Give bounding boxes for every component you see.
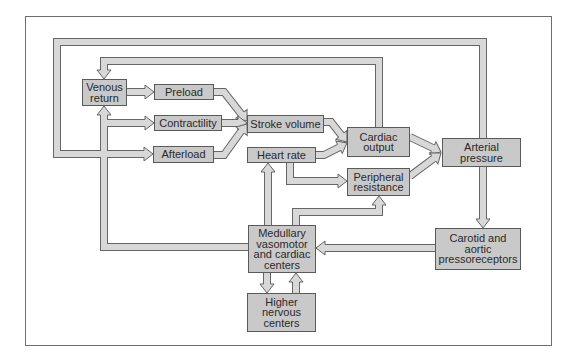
arrowhead-to-venous-return-bottom [97,106,111,115]
node-label: Cardiac output [360,132,398,153]
arrowhead-to-contractility [145,116,154,130]
node-medullary-centers: Medullary vasomotor and cardiac centers [248,225,316,273]
arrowhead-to-venous-return-top [97,70,111,79]
node-label: Contractility [159,118,216,129]
arrowhead-pressoreceptors-to-medullary [316,241,325,255]
arrowhead-higher-centers-to-medullary [289,273,303,282]
node-higher-nervous-centers: Higher nervous centers [247,293,316,332]
node-stroke-volume: Stroke volume [247,115,324,133]
node-cardiac-output: Cardiac output [347,127,410,157]
node-label: Stroke volume [250,119,320,130]
arrowhead-to-afterload [144,147,153,161]
node-arterial-pressure: Arterial pressure [442,138,521,167]
node-label: Carotid and aortic pressoreceptors [439,233,518,265]
node-label: Heart rate [257,150,306,161]
node-heart-rate: Heart rate [247,147,316,163]
arrowhead-medullary-to-heart-rate [261,163,275,172]
node-pressoreceptors: Carotid and aortic pressoreceptors [435,228,521,270]
node-label: Arterial pressure [460,142,503,163]
node-label: Preload [165,87,203,98]
node-afterload: Afterload [153,146,214,163]
node-peripheral-resistance: Peripheral resistance [347,168,410,196]
node-contractility: Contractility [154,115,222,131]
node-label: Afterload [161,149,205,160]
node-preload: Preload [154,84,214,100]
arrowhead-to-preload [145,85,154,99]
arrowhead-medullary-to-higher-centers [260,284,274,293]
diagram-canvas: Venous return Preload Contractility Afte… [0,0,565,363]
node-label: Higher nervous centers [262,297,301,329]
node-label: Venous return [86,82,123,103]
node-venous-return: Venous return [82,79,127,106]
arrowhead-heart-rate-to-peripheral-resistance [338,174,347,188]
node-label: Peripheral resistance [353,172,403,193]
arrowhead-medullary-to-peripheral-resistance [372,196,386,205]
arrowhead-arterial-pressure-to-pressoreceptors [476,219,490,228]
node-label: Medullary vasomotor and cardiac centers [254,228,311,270]
